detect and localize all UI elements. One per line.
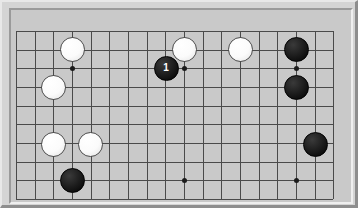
grid-line-vertical-10 (203, 31, 204, 199)
black-stone-2[interactable] (284, 37, 309, 62)
white-stone-1[interactable] (60, 37, 85, 62)
go-board-screenshot: 1 (0, 0, 364, 218)
white-stone-4[interactable] (41, 75, 66, 100)
black-stone-move-1[interactable]: 1 (154, 56, 179, 81)
grid-line-vertical-2 (53, 31, 54, 199)
grid-line-horizontal-4 (16, 106, 333, 107)
grid-line-vertical-14 (277, 31, 278, 199)
black-stone-4[interactable] (303, 132, 328, 157)
star-point-lower-center (182, 178, 187, 183)
grid-line-horizontal-9 (16, 199, 333, 200)
grid-line-horizontal-0 (16, 31, 333, 32)
white-stone-5[interactable] (41, 132, 66, 157)
white-stone-3[interactable] (228, 37, 253, 62)
black-stone-5[interactable] (60, 168, 85, 193)
move-number-label: 1 (155, 57, 178, 80)
grid-line-vertical-1 (35, 31, 36, 199)
grid-line-vertical-16 (315, 31, 316, 199)
grid-line-vertical-17 (333, 31, 334, 199)
star-point-upper-left (70, 66, 75, 71)
grid-line-vertical-5 (109, 31, 110, 199)
grid-line-vertical-7 (147, 31, 148, 199)
grid-line-vertical-6 (128, 31, 129, 199)
black-stone-3[interactable] (284, 75, 309, 100)
grid-line-horizontal-5 (16, 124, 333, 125)
grid-line-vertical-13 (259, 31, 260, 199)
star-point-upper-center (182, 66, 187, 71)
grid-line-vertical-4 (91, 31, 92, 199)
grid-line-vertical-0 (16, 31, 17, 199)
grid-line-horizontal-7 (16, 162, 333, 163)
white-stone-6[interactable] (78, 132, 103, 157)
star-point-upper-right (294, 66, 299, 71)
star-point-lower-right (294, 178, 299, 183)
board-grid[interactable]: 1 (0, 0, 358, 208)
grid-line-vertical-11 (221, 31, 222, 199)
